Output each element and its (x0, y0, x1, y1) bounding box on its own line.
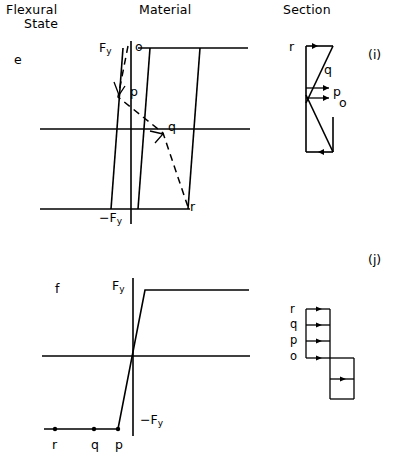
material-plot-e-dashed-path (118, 46, 188, 207)
section-e-arrowhead-o (323, 95, 329, 101)
material-f-label-fy-positive: Fy (112, 278, 125, 294)
material-e-point-q: q (168, 119, 176, 134)
section-f-arrowhead-o (316, 356, 322, 361)
section-diagram-e (285, 40, 375, 170)
material-f-axis-point-r: r (52, 437, 57, 452)
section-f-point-q: q (290, 317, 297, 331)
section-e-point-q: q (324, 62, 332, 77)
material-e-label-fy-negative: −Fy (99, 210, 122, 226)
material-plot-f-point-marker-q (92, 427, 96, 431)
section-e-point-o: o (339, 95, 347, 110)
section-e-lower-diagonal (306, 95, 333, 152)
material-e-label-fy-positive: Fy (99, 40, 112, 56)
material-plot-f-constitutive-curve (44, 290, 249, 429)
section-e-arrowhead-p (323, 85, 329, 91)
section-f-point-r: r (290, 302, 295, 316)
section-e-arrowhead-top (312, 43, 318, 49)
section-f-arrowhead-lower (340, 377, 346, 382)
section-f-arrowhead-q (316, 323, 322, 328)
section-f-arrowhead-p (316, 339, 322, 344)
material-plot-f-point-marker-p (116, 427, 120, 431)
material-e-point-o: o (135, 39, 143, 54)
section-e-point-r: r (289, 39, 294, 54)
material-e-point-r: r (190, 199, 195, 214)
material-plot-f-point-marker-r (53, 427, 57, 431)
material-f-axis-point-q: q (91, 437, 99, 452)
section-f-point-o: o (290, 349, 297, 363)
section-f-point-p: p (290, 333, 297, 347)
figure-canvas: Flexural State Material Section e (i) Fy… (0, 0, 404, 463)
material-f-axis-point-p: p (115, 437, 123, 452)
section-f-arrowhead-r (316, 307, 322, 312)
section-diagram-f (300, 306, 380, 402)
material-e-point-p: p (130, 84, 138, 99)
section-e-arrowhead-bottom (318, 149, 324, 155)
material-f-label-fy-negative: −Fy (140, 412, 163, 428)
material-plot-e-arrow-q (150, 131, 163, 143)
